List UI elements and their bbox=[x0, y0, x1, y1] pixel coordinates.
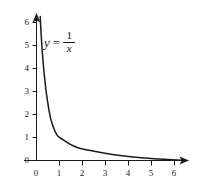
fraction-denominator: x bbox=[65, 43, 74, 55]
x-tick-label-4: 4 bbox=[122, 169, 134, 178]
y-tick-label-0: 0 bbox=[17, 156, 29, 165]
equation-fraction: 1 x bbox=[63, 30, 75, 54]
equation-equals-sign: = bbox=[53, 36, 60, 49]
y-tick-label-1: 1 bbox=[17, 133, 29, 142]
y-tick-label-4: 4 bbox=[17, 64, 29, 73]
y-tick-label-5: 5 bbox=[17, 41, 29, 50]
x-tick-label-5: 5 bbox=[145, 169, 157, 178]
x-tick-label-0: 0 bbox=[30, 169, 42, 178]
function-graph-figure: 0 1 2 3 4 5 6 0 1 2 3 4 5 6 y = 1 x bbox=[0, 0, 197, 190]
y-tick-label-2: 2 bbox=[17, 110, 29, 119]
x-tick-label-6: 6 bbox=[168, 169, 180, 178]
equation-annotation: y = 1 x bbox=[44, 30, 75, 54]
y-axis-ticks bbox=[33, 23, 37, 161]
x-tick-label-3: 3 bbox=[99, 169, 111, 178]
x-tick-label-2: 2 bbox=[76, 169, 88, 178]
fraction-numerator: 1 bbox=[64, 30, 74, 42]
y-tick-label-3: 3 bbox=[17, 87, 29, 96]
plot-canvas bbox=[0, 0, 197, 190]
y-tick-label-6: 6 bbox=[17, 18, 29, 27]
equation-lhs: y bbox=[44, 36, 50, 49]
x-tick-label-1: 1 bbox=[53, 169, 65, 178]
x-axis-ticks bbox=[60, 161, 175, 166]
